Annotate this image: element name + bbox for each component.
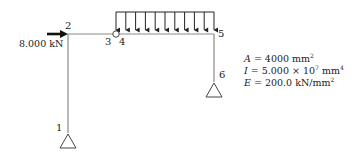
distributed-load [116,12,214,30]
property-area: A = 4000 mm2 [244,53,344,65]
property-modulus: E = 200.0 kN/mm2 [244,77,344,89]
pin-support-icon-1 [60,134,76,148]
node-label-4: 4 [119,37,125,47]
pin-support-icon-6 [206,83,222,97]
node-label-5: 5 [218,29,224,39]
node-label-1: 1 [56,123,62,133]
point-load-arrow-icon [47,30,68,38]
node-label-3: 3 [105,37,111,47]
point-load-label: 8.000 kN [19,39,63,49]
property-inertia: I = 5.000 × 107 mm4 [244,65,344,77]
node-label-6: 6 [219,70,225,80]
section-properties: A = 4000 mm2 I = 5.000 × 107 mm4 E = 200… [244,53,344,89]
node-label-2: 2 [65,21,71,31]
members [68,34,214,133]
